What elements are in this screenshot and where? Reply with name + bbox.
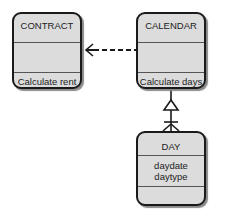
class-name: CONTRACT xyxy=(14,14,80,43)
class-attributes xyxy=(138,43,204,73)
open-arrowhead-icon xyxy=(86,44,93,56)
crows-foot-left xyxy=(163,124,171,131)
class-attributes: daydate daytype xyxy=(138,156,204,187)
class-day[interactable]: DAY daydate daytype xyxy=(136,131,206,206)
class-operation: Calculate rent xyxy=(14,73,80,87)
class-contract[interactable]: CONTRACT Calculate rent xyxy=(12,12,82,89)
class-operations xyxy=(138,187,204,204)
crows-foot-right xyxy=(171,124,179,131)
class-name: CALENDAR xyxy=(138,14,204,43)
attribute: daytype xyxy=(138,171,204,182)
class-operation: Calculate days xyxy=(138,73,204,87)
class-attributes xyxy=(14,43,80,73)
hollow-triangle-icon xyxy=(164,100,178,110)
attribute: daydate xyxy=(138,160,204,171)
class-calendar[interactable]: CALENDAR Calculate days xyxy=(136,12,206,89)
class-name: DAY xyxy=(138,133,204,156)
